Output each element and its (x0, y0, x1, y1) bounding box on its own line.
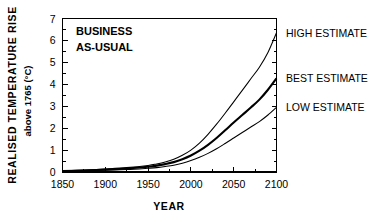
y-tick-label: 1 (50, 144, 56, 156)
x-tick-label: 1950 (136, 178, 160, 190)
y-tick-label: 2 (50, 122, 56, 134)
y-tick-label: 0 (50, 166, 56, 178)
x-tick-label: 2050 (222, 178, 246, 190)
y-tick-label: 6 (50, 34, 56, 46)
temperature-rise-line-chart: 01234567 185019001950200020502100 HIGH E… (0, 0, 380, 222)
x-tick-label: 1900 (94, 178, 118, 190)
series-label-low-estimate: LOW ESTIMATE (286, 101, 365, 113)
x-tick-label: 2100 (265, 178, 289, 190)
y-tick-label: 3 (50, 100, 56, 112)
y-axis-title: REALISED TEMPERATURE RISE (6, 6, 18, 184)
series-label-best-estimate: BEST ESTIMATE (286, 72, 368, 84)
annotation-line-1: BUSINESS (76, 25, 132, 37)
x-tick-label: 1850 (51, 178, 75, 190)
x-tick-label: 2000 (179, 178, 203, 190)
y-tick-label: 5 (50, 56, 56, 68)
series-label-high-estimate: HIGH ESTIMATE (286, 27, 367, 39)
y-tick-label: 7 (50, 13, 56, 25)
x-axis-title: YEAR (153, 200, 185, 212)
y-tick-label: 4 (50, 78, 56, 90)
chart-figure: 01234567 185019001950200020502100 HIGH E… (0, 0, 380, 222)
annotation-line-2: AS-USUAL (76, 41, 133, 53)
y-axis-subtitle: above 1765 (°C) (22, 66, 33, 137)
